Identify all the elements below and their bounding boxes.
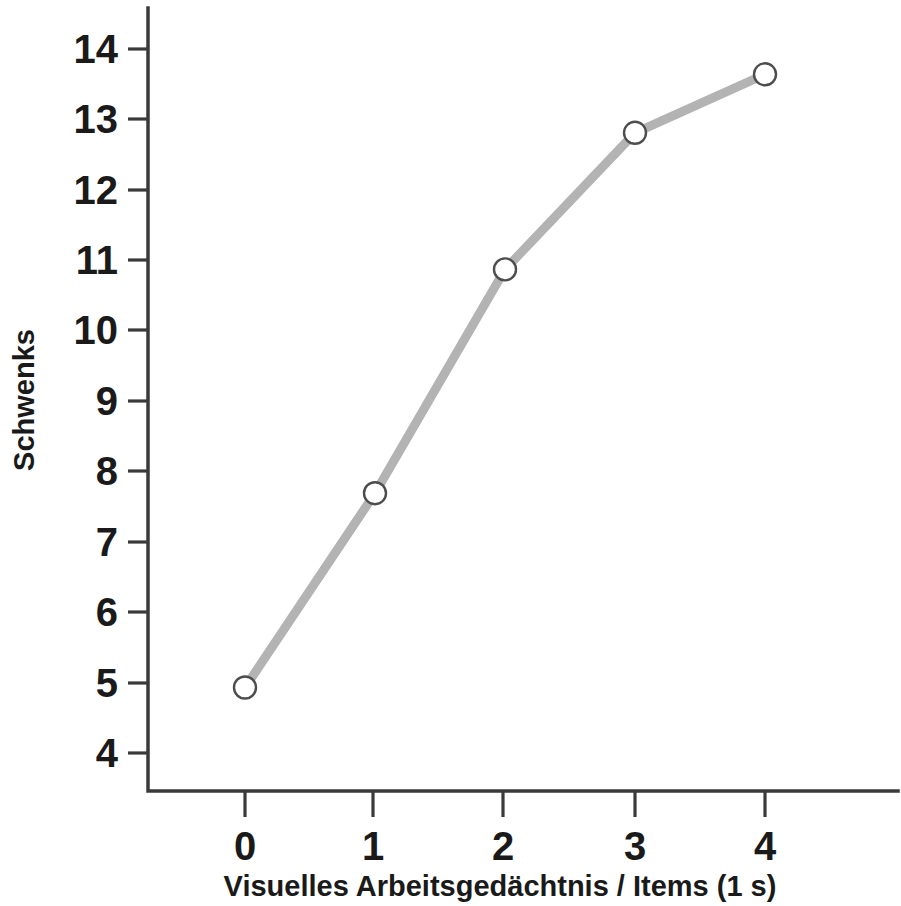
- y-tick-label-8: 8: [96, 449, 118, 493]
- x-axis-ticks: [245, 791, 765, 817]
- data-point-marker: [754, 63, 776, 85]
- y-tick-label-6: 6: [96, 590, 118, 634]
- y-tick-label-14: 14: [74, 27, 119, 71]
- y-axis-ticks: [128, 49, 148, 753]
- line-chart: 14 13 12 11 10 9 8 7 6 5 4 0 1 2 3 4: [0, 0, 901, 906]
- data-point-marker: [234, 677, 256, 699]
- y-axis-title: Schwenks: [8, 329, 40, 471]
- y-tick-label-4: 4: [96, 731, 119, 775]
- data-point-marker: [494, 258, 516, 280]
- y-tick-label-12: 12: [74, 168, 119, 212]
- y-tick-label-9: 9: [96, 379, 118, 423]
- data-point-marker: [364, 482, 386, 504]
- chart-axes: [148, 8, 898, 791]
- data-point-marker: [624, 122, 646, 144]
- data-series-schwenks: [234, 63, 776, 698]
- chart-figure: 14 13 12 11 10 9 8 7 6 5 4 0 1 2 3 4: [0, 0, 901, 906]
- x-axis-tick-labels: 0 1 2 3 4: [234, 824, 777, 868]
- series-line: [245, 74, 765, 687]
- x-tick-label-1: 1: [362, 824, 384, 868]
- y-tick-label-10: 10: [74, 308, 119, 352]
- x-tick-label-2: 2: [492, 824, 514, 868]
- y-tick-label-7: 7: [96, 520, 118, 564]
- y-tick-label-13: 13: [74, 97, 119, 141]
- x-tick-label-3: 3: [624, 824, 646, 868]
- x-tick-label-0: 0: [234, 824, 256, 868]
- y-axis-tick-labels: 14 13 12 11 10 9 8 7 6 5 4: [74, 27, 119, 775]
- y-tick-label-11: 11: [76, 238, 118, 282]
- x-tick-label-4: 4: [754, 824, 777, 868]
- y-tick-label-5: 5: [96, 661, 118, 705]
- x-axis-title: Visuelles Arbeitsgedächtnis / Items (1 s…: [224, 870, 777, 902]
